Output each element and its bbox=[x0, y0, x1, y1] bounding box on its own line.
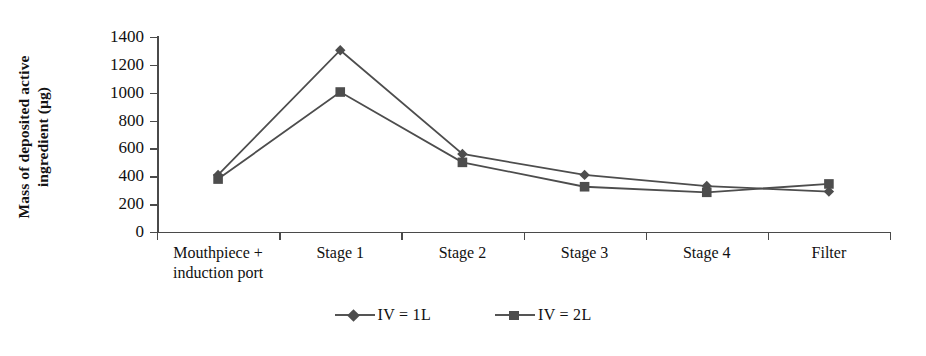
data-point-diamond bbox=[579, 170, 589, 180]
data-point-square bbox=[824, 179, 834, 189]
data-point-square bbox=[458, 158, 468, 168]
legend-item-series-1[interactable]: IV = 1L bbox=[335, 306, 432, 324]
data-point-square bbox=[702, 188, 712, 198]
chart-legend: IV = 1L IV = 2L bbox=[0, 306, 926, 324]
legend-label-series-1: IV = 1L bbox=[378, 306, 432, 324]
data-point-square bbox=[335, 87, 345, 97]
series-line bbox=[218, 92, 829, 192]
data-point-square bbox=[580, 182, 590, 192]
series-plot bbox=[0, 0, 926, 356]
legend-item-series-2[interactable]: IV = 2L bbox=[495, 306, 592, 324]
series-group-2 bbox=[213, 87, 833, 197]
legend-label-series-2: IV = 2L bbox=[538, 306, 592, 324]
data-point-square bbox=[213, 174, 223, 184]
square-marker-icon bbox=[495, 308, 535, 322]
series-line bbox=[218, 50, 829, 191]
chart-figure: Mass of deposited active ingredient (µg)… bbox=[0, 0, 926, 356]
diamond-marker-icon bbox=[335, 308, 375, 322]
